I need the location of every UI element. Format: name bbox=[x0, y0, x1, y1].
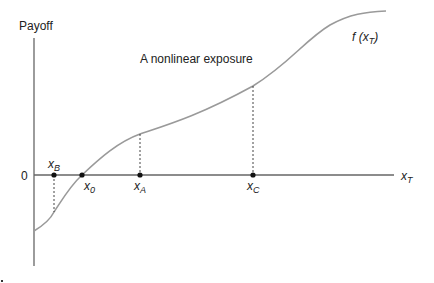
curve-label: f (xT) bbox=[352, 30, 378, 46]
x-axis-label: xT bbox=[400, 169, 414, 185]
xb-label: xB bbox=[47, 157, 60, 173]
xa-label: xA bbox=[133, 179, 146, 195]
corner-mark bbox=[1, 280, 3, 282]
zero-tick-label: 0 bbox=[21, 169, 28, 183]
xc-label: xC bbox=[246, 179, 260, 195]
diagram-title: A nonlinear exposure bbox=[140, 52, 253, 66]
point-xb bbox=[51, 172, 56, 177]
point-xa bbox=[137, 172, 142, 177]
x0-label: x0 bbox=[83, 179, 95, 195]
nonlinear-exposure-diagram: Payoff 0 A nonlinear exposure xT f (xT) … bbox=[0, 0, 434, 283]
payoff-curve bbox=[34, 11, 386, 231]
point-xc bbox=[250, 172, 255, 177]
point-x0 bbox=[79, 172, 84, 177]
y-axis-label: Payoff bbox=[19, 19, 53, 33]
